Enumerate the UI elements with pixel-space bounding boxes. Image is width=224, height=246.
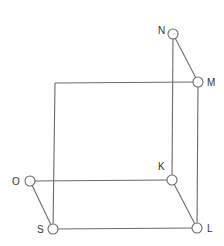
label-o: O [12,176,20,187]
label-s: S [37,224,44,235]
label-m: M [207,77,215,88]
edge-s-l [53,228,197,229]
node-m [193,77,203,87]
edge-corner_top_left-m [55,82,198,83]
edge-o-k [30,180,172,181]
edge-corner_top_left-s [53,83,55,229]
node-n [168,29,178,39]
edge-m-l [197,82,198,228]
node-k [167,175,177,185]
edge-o-s [30,181,53,229]
label-l: L [207,223,213,234]
node-o [25,176,35,186]
edge-k-l [172,180,197,228]
node-s [48,224,58,234]
edge-n-m [173,34,198,82]
cube-diagram: NMKLOS [0,0,224,246]
node-l [192,223,202,233]
label-k: K [158,161,165,172]
edge-n-k [172,34,173,180]
diagram-nodes [25,29,203,234]
label-n: N [158,25,165,36]
diagram-edges [30,34,198,229]
